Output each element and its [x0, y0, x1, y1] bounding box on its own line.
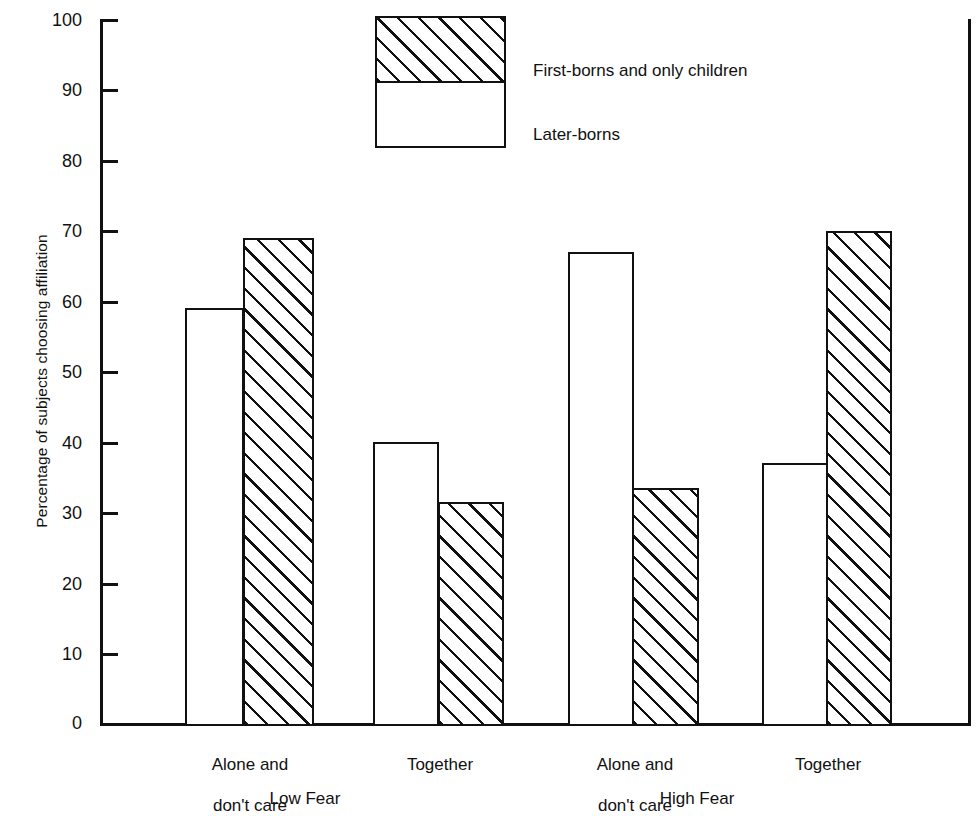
y-tick-label-60: 60 [30, 293, 82, 311]
y-tick-mark-50 [103, 371, 118, 374]
y-tick-label-40: 40 [30, 434, 82, 452]
y-tick-mark-20 [103, 583, 118, 586]
x-category-label-1-line1: Together [360, 755, 520, 775]
bar-high-fear-alone-later-borns [568, 252, 634, 726]
bar-low-fear-together-first-borns [438, 502, 504, 726]
y-tick-label-0: 0 [30, 714, 82, 732]
y-tick-label-100: 100 [30, 11, 82, 29]
bar-low-fear-alone-first-borns [243, 238, 314, 726]
legend-swatch-first-borns [375, 16, 506, 83]
y-tick-label-90: 90 [30, 81, 82, 99]
plot-right-border [968, 19, 971, 726]
x-group-label-low-fear: Low Fear [225, 789, 385, 809]
legend-label-later-borns: Later-borns [533, 125, 620, 145]
y-tick-mark-10 [103, 653, 118, 656]
y-tick-mark-80 [103, 160, 118, 163]
y-tick-mark-70 [103, 230, 118, 233]
x-category-label-3-line1: Together [748, 755, 908, 775]
y-tick-mark-60 [103, 301, 118, 304]
y-tick-mark-100 [103, 19, 118, 22]
bar-chart-figure: Percentage of subjects choosing affiliat… [0, 0, 977, 816]
y-tick-label-50: 50 [30, 363, 82, 381]
y-tick-label-80: 80 [30, 152, 82, 170]
x-group-label-high-fear: High Fear [617, 789, 777, 809]
legend-label-first-borns: First-borns and only children [533, 61, 747, 81]
bar-high-fear-together-first-borns [826, 231, 892, 727]
y-tick-mark-0 [103, 723, 118, 726]
y-axis-label: Percentage of subjects choosing affiliat… [33, 151, 51, 611]
x-category-label-1: Together [360, 735, 520, 796]
y-tick-label-70: 70 [30, 222, 82, 240]
y-tick-label-30: 30 [30, 504, 82, 522]
y-tick-mark-30 [103, 512, 118, 515]
bar-high-fear-together-later-borns [762, 463, 828, 726]
x-category-label-0-line1: Alone and [170, 755, 330, 775]
x-category-label-2-line1: Alone and [555, 755, 715, 775]
y-tick-mark-40 [103, 442, 118, 445]
bar-low-fear-together-later-borns [373, 442, 439, 726]
x-category-label-3: Together [748, 735, 908, 796]
y-tick-mark-90 [103, 89, 118, 92]
y-tick-label-10: 10 [30, 645, 82, 663]
y-tick-label-20: 20 [30, 575, 82, 593]
legend-swatch-later-borns [375, 81, 506, 148]
bar-high-fear-alone-first-borns [632, 488, 699, 726]
bar-low-fear-alone-later-borns [185, 308, 244, 726]
